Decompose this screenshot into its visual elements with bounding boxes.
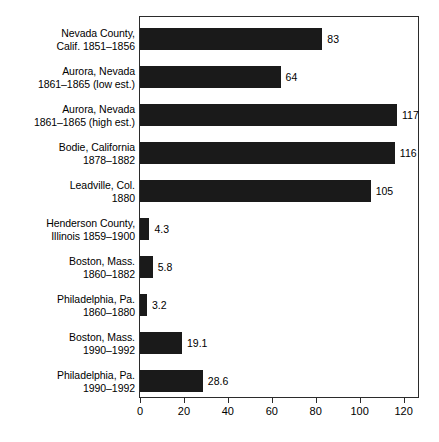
bar-value-label: 4.3 xyxy=(154,223,169,235)
bar-row: Nevada County, Calif. 1851–185683 xyxy=(0,20,439,58)
bar xyxy=(140,332,182,354)
bar-row: Henderson County, Illinois 1859–19004.3 xyxy=(0,210,439,248)
bar-row: Aurora, Nevada 1861–1865 (low est.)64 xyxy=(0,58,439,96)
bar-value-label: 105 xyxy=(376,185,394,197)
bar-group: 3.2 xyxy=(140,294,167,316)
bar-group: 4.3 xyxy=(140,218,169,240)
category-label: Aurora, Nevada 1861–1865 (high est.) xyxy=(0,103,135,128)
category-label: Leadville, Col. 1880 xyxy=(0,179,135,204)
category-label: Philadelphia, Pa. 1990–1992 xyxy=(0,369,135,394)
bar-group: 117 xyxy=(140,104,419,126)
bar-row: Philadelphia, Pa. 1860–18803.2 xyxy=(0,286,439,324)
bar xyxy=(140,180,371,202)
bar-row: Bodie, California 1878–1882116 xyxy=(0,134,439,172)
bar xyxy=(140,28,322,50)
bar-value-label: 19.1 xyxy=(187,337,207,349)
bar-group: 19.1 xyxy=(140,332,207,354)
bar-group: 105 xyxy=(140,180,393,202)
category-label: Aurora, Nevada 1861–1865 (low est.) xyxy=(0,65,135,90)
bar xyxy=(140,104,397,126)
bar-value-label: 117 xyxy=(402,109,419,121)
bar-value-label: 83 xyxy=(327,33,339,45)
bar-group: 5.8 xyxy=(140,256,172,278)
bar xyxy=(140,256,153,278)
bar-row: Boston, Mass. 1860–18825.8 xyxy=(0,248,439,286)
bar-group: 64 xyxy=(140,66,297,88)
bar-row: Leadville, Col. 1880105 xyxy=(0,172,439,210)
bar xyxy=(140,218,149,240)
bar-row: Aurora, Nevada 1861–1865 (high est.)117 xyxy=(0,96,439,134)
bar-chart: Nevada County, Calif. 1851–185683Aurora,… xyxy=(0,0,439,442)
bar-value-label: 3.2 xyxy=(152,299,167,311)
bar-rows: Nevada County, Calif. 1851–185683Aurora,… xyxy=(0,0,439,442)
category-label: Philadelphia, Pa. 1860–1880 xyxy=(0,293,135,318)
category-label: Henderson County, Illinois 1859–1900 xyxy=(0,217,135,242)
category-label: Bodie, California 1878–1882 xyxy=(0,141,135,166)
bar-row: Boston, Mass. 1990–199219.1 xyxy=(0,324,439,362)
bar-value-label: 116 xyxy=(400,147,417,159)
bar-group: 116 xyxy=(140,142,417,164)
bar-value-label: 5.8 xyxy=(158,261,173,273)
bar-value-label: 64 xyxy=(286,71,298,83)
bar-row: Philadelphia, Pa. 1990–199228.6 xyxy=(0,362,439,400)
category-label: Nevada County, Calif. 1851–1856 xyxy=(0,27,135,52)
bar xyxy=(140,370,203,392)
bar xyxy=(140,142,395,164)
bar-group: 28.6 xyxy=(140,370,228,392)
bar-group: 83 xyxy=(140,28,339,50)
category-label: Boston, Mass. 1860–1882 xyxy=(0,255,135,280)
category-label: Boston, Mass. 1990–1992 xyxy=(0,331,135,356)
bar-value-label: 28.6 xyxy=(208,375,228,387)
bar xyxy=(140,294,147,316)
bar xyxy=(140,66,281,88)
